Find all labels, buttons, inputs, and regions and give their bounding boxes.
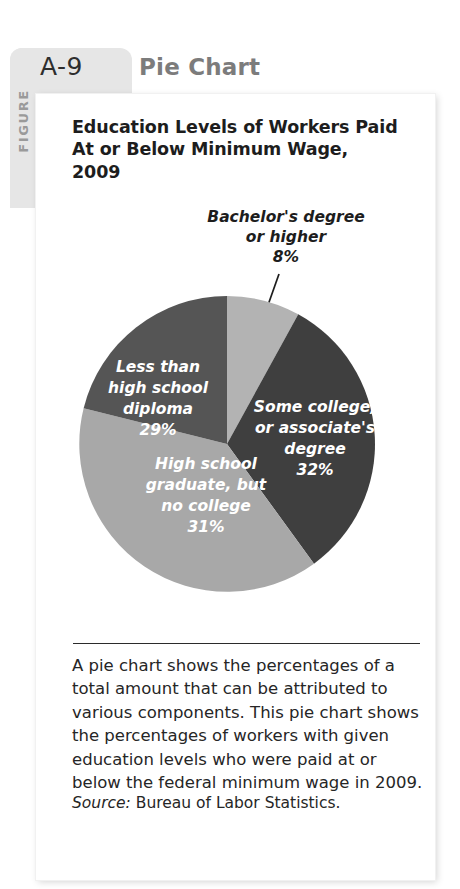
caption-source-lead: Source: bbox=[72, 794, 131, 812]
slice-label-line-3: no college bbox=[161, 497, 251, 515]
slice-label-value: 32% bbox=[296, 461, 333, 479]
callout-value: 8% bbox=[273, 248, 299, 266]
pie-chart-svg: Bachelor's degree or higher 8% Less than… bbox=[36, 194, 435, 614]
slice-label-line-2: high school bbox=[108, 379, 209, 397]
slice-label-line-1: Less than bbox=[116, 358, 200, 376]
slice-label-line-2: or associate's bbox=[255, 419, 375, 437]
slice-label-line-2: graduate, but bbox=[146, 476, 267, 494]
caption-body: A pie chart shows the percentages of a t… bbox=[72, 654, 424, 795]
slice-label-line-3: diploma bbox=[123, 400, 193, 418]
slice-label-value: 31% bbox=[187, 518, 224, 536]
slice-label-line-1: Some college, bbox=[254, 398, 376, 416]
figure-label: FIGURE bbox=[10, 71, 36, 171]
figure-kind-title: Pie Chart bbox=[139, 54, 260, 80]
callout-line-2: or higher bbox=[246, 228, 328, 246]
figure-card: Education Levels of Workers Paid At or B… bbox=[36, 94, 435, 880]
slice-label-line-3: degree bbox=[284, 440, 345, 458]
caption-divider bbox=[73, 643, 420, 644]
callout-line-1: Bachelor's degree bbox=[207, 208, 364, 226]
chart-title-line-2: At or Below Minimum Wage, 2009 bbox=[72, 138, 402, 183]
figure-number: A-9 bbox=[40, 52, 83, 81]
pie-chart: Bachelor's degree or higher 8% Less than… bbox=[36, 194, 435, 614]
slice-label-line-1: High school bbox=[155, 455, 258, 473]
caption-source-text: Bureau of Labor Statistics. bbox=[136, 794, 341, 812]
caption-source: Source: Bureau of Labor Statistics. bbox=[72, 794, 424, 812]
figure-rail: FIGURE bbox=[10, 48, 36, 208]
chart-title: Education Levels of Workers Paid At or B… bbox=[72, 116, 402, 183]
slice-label-value: 29% bbox=[139, 421, 176, 439]
chart-title-line-1: Education Levels of Workers Paid bbox=[72, 116, 402, 138]
